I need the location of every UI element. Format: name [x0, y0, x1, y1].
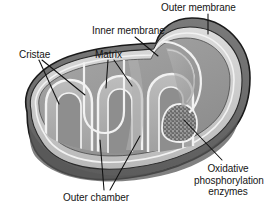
- label-outer-chamber: Outer chamber: [63, 192, 129, 204]
- label-oxphos-line-1: Oxidative: [207, 163, 248, 174]
- label-oxidative-phosphorylation-enzymes: Oxidative phosphorylation enzymes: [194, 163, 262, 198]
- mitochondrion-diagram: Outer membrane Inner membrane Cristae Ma…: [0, 0, 267, 211]
- label-matrix: Matrix: [95, 49, 122, 61]
- label-oxphos-line-3: enzymes: [208, 186, 248, 197]
- label-outer-membrane: Outer membrane: [161, 2, 236, 14]
- label-oxphos-line-2: phosphorylation: [194, 175, 264, 186]
- label-inner-membrane: Inner membrane: [92, 25, 165, 37]
- label-cristae: Cristae: [19, 49, 50, 61]
